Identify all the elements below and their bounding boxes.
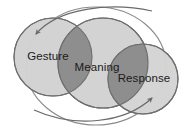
label-meaning: Meaning — [75, 61, 120, 73]
venn-diagram-container: Gesture Meaning Response — [0, 0, 192, 134]
label-response: Response — [118, 72, 171, 84]
label-gesture: Gesture — [27, 50, 69, 62]
venn-diagram-svg: Gesture Meaning Response — [0, 0, 192, 134]
